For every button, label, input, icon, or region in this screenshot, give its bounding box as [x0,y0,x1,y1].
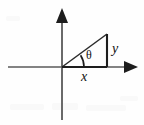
horizontal-axis-arrow-icon [124,61,138,73]
angle-label-theta: θ [86,49,92,61]
horizontal-leg-label-x: x [81,70,87,84]
vertical-axis-arrow-icon [56,8,68,23]
triangle-hypotenuse [62,34,107,67]
angle-arc-marker [81,55,84,67]
coordinate-diagram-svg [0,0,144,125]
vertical-leg-label-y: y [112,42,118,56]
figure-container: θ y x [0,0,144,125]
